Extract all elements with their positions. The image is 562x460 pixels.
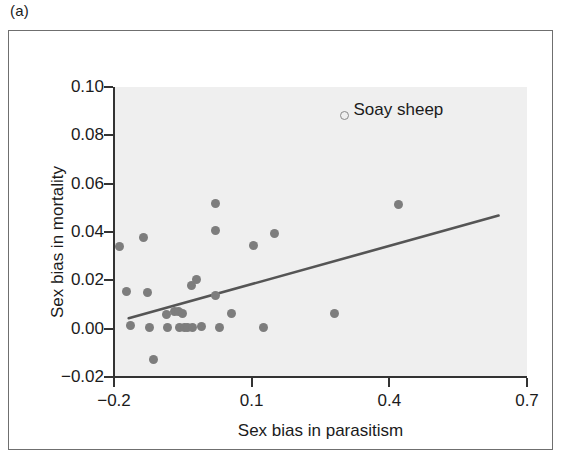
y-tick-mark bbox=[104, 134, 113, 136]
data-point bbox=[227, 309, 236, 318]
data-point bbox=[215, 323, 224, 332]
regression-line-segment bbox=[129, 216, 499, 319]
data-point bbox=[259, 323, 268, 332]
annotation-soay-sheep: Soay sheep bbox=[354, 100, 444, 120]
x-tick-mark bbox=[113, 378, 115, 387]
y-tick-label: 0.10 bbox=[42, 77, 104, 97]
data-point bbox=[197, 322, 206, 331]
figure-panel-a: (a) −0.020.000.020.040.060.080.10 −0.20.… bbox=[0, 0, 562, 460]
data-point bbox=[330, 309, 339, 318]
x-tick-mark bbox=[251, 378, 253, 387]
data-point bbox=[192, 275, 201, 284]
x-axis-title: Sex bias in parasitism bbox=[114, 421, 527, 441]
y-tick-mark bbox=[104, 231, 113, 233]
x-tick-label: 0.1 bbox=[217, 391, 287, 411]
data-point bbox=[126, 321, 135, 330]
y-axis-title: Sex bias in mortality bbox=[48, 97, 68, 387]
x-tick-label: 0.7 bbox=[492, 391, 562, 411]
x-tick-mark bbox=[526, 378, 528, 387]
panel-label: (a) bbox=[10, 2, 29, 19]
data-point bbox=[143, 288, 152, 297]
y-tick-mark bbox=[104, 328, 113, 330]
x-tick-label: −0.2 bbox=[79, 391, 149, 411]
figure-frame: −0.020.000.020.040.060.080.10 −0.20.10.4… bbox=[8, 30, 553, 450]
data-point bbox=[211, 226, 220, 235]
y-tick-mark bbox=[104, 183, 113, 185]
x-tick-label: 0.4 bbox=[354, 391, 424, 411]
y-tick-mark bbox=[104, 376, 113, 378]
y-tick-mark bbox=[104, 86, 113, 88]
regression-line bbox=[114, 87, 527, 377]
y-tick-mark bbox=[104, 279, 113, 281]
x-tick-mark bbox=[388, 378, 390, 387]
